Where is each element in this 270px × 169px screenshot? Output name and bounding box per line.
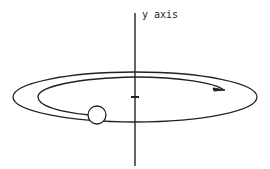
y-axis-label: y axis xyxy=(142,9,178,20)
ball xyxy=(88,106,106,124)
orbit-diagram xyxy=(0,0,270,169)
arrow-head-icon xyxy=(213,88,225,91)
